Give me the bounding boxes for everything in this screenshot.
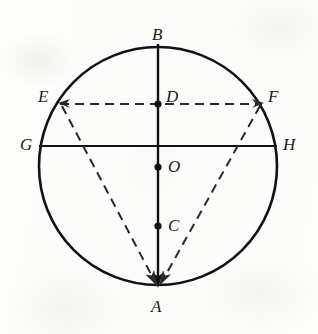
point-marker-C <box>154 222 161 229</box>
segment-FA <box>164 106 260 278</box>
point-label-G: G <box>20 136 32 153</box>
point-marker-O <box>154 163 161 170</box>
geometry-figure <box>0 0 318 334</box>
point-label-F: F <box>268 88 278 105</box>
point-label-B: B <box>152 26 162 43</box>
point-label-H: H <box>283 136 295 153</box>
point-label-A: A <box>151 298 161 315</box>
point-label-O: O <box>168 158 180 175</box>
point-marker-D <box>154 100 161 107</box>
point-label-E: E <box>38 88 48 105</box>
point-label-C: C <box>168 217 179 234</box>
point-label-D: D <box>166 88 178 105</box>
diagram-canvas: B D O C A E F G H <box>0 0 318 334</box>
